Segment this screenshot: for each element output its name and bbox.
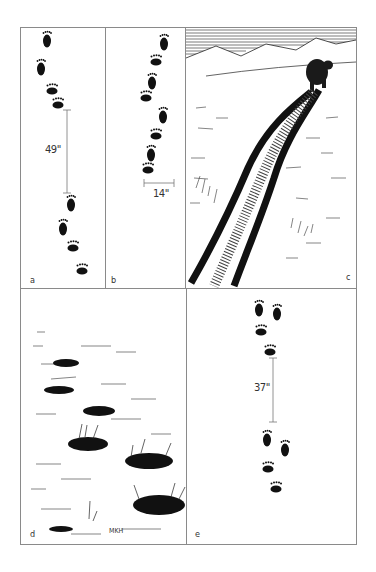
tundra-depressions-illustration — [21, 289, 187, 544]
depression-mark — [53, 359, 79, 367]
panel-b: 14" b — [106, 28, 186, 289]
panel-e: 37" e — [187, 289, 356, 544]
stride-measurement-e: 37" — [254, 382, 270, 393]
panel-label-d: d — [30, 529, 35, 539]
bear-trail-illustration — [186, 28, 356, 289]
panel-c: c — [186, 28, 356, 289]
hind-paw-icon — [43, 31, 52, 48]
track-sequence-e — [187, 289, 356, 544]
track-sequence-a — [21, 28, 106, 289]
panel-label-b: b — [111, 275, 116, 285]
panel-label-a: a — [30, 275, 35, 285]
panel-d: MKH d — [21, 289, 187, 544]
straddle-measurement-b: 14" — [153, 188, 169, 199]
track-sequence-b — [106, 28, 186, 289]
figure-grid: 49" a 14" b — [20, 27, 357, 545]
bear-icon — [306, 59, 333, 92]
panel-label-e: e — [195, 529, 200, 539]
panel-a: 49" a — [21, 28, 106, 289]
artist-signature: MKH — [109, 527, 123, 535]
stride-measurement-a: 49" — [45, 144, 61, 155]
panel-label-c: c — [346, 272, 350, 282]
